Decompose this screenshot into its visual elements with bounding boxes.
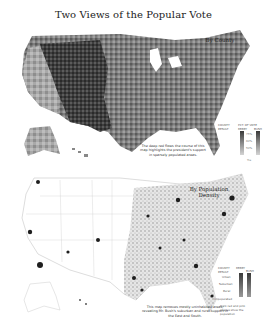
legend-bar-kerry: [240, 131, 244, 155]
legend-bar-bush: [256, 131, 260, 155]
legend-heading-left: COUNTY RESULT: [218, 266, 230, 274]
density-map-label: By Population Density: [184, 186, 234, 199]
legend-tick: 75%: [246, 132, 252, 136]
legend-footnote: Dark red and pink shades show the popula…: [220, 304, 250, 316]
legend-col-kerry: KERRY: [236, 266, 245, 270]
legend-row-suburban: Suburban: [219, 282, 233, 286]
legend-tick: Tie: [247, 158, 251, 162]
county-map-note: The deep red flows the course of this ma…: [140, 144, 206, 157]
density-map-note: This map removes mostly uninhabited area…: [140, 305, 230, 318]
page-title: Two Views of the Popular Vote: [0, 9, 267, 20]
legend-row-urban: Urban: [222, 275, 230, 279]
legend-tick: 50%: [246, 146, 252, 150]
legend-row-rural: Rural: [223, 289, 230, 293]
density-map-legend: COUNTY RESULT KERRY BUSH Urban Suburban …: [218, 266, 267, 316]
legend-heading-left: COUNTY RESULT: [218, 123, 230, 131]
county-map-panel: By County The deep red flows the course …: [0, 28, 267, 170]
legend-row-unpopulated: Unpopulated: [214, 297, 232, 301]
legend-bar-bush: [247, 273, 251, 297]
density-map-panel: By Population Density This map removes m…: [0, 170, 267, 321]
legend-tick: 60%: [246, 139, 252, 143]
county-map-label: By County: [190, 37, 250, 43]
county-map-legend: COUNTY RESULT PCT. OF VOTE KERRY BUSH 75…: [218, 123, 267, 168]
legend-bar-kerry: [239, 273, 243, 297]
